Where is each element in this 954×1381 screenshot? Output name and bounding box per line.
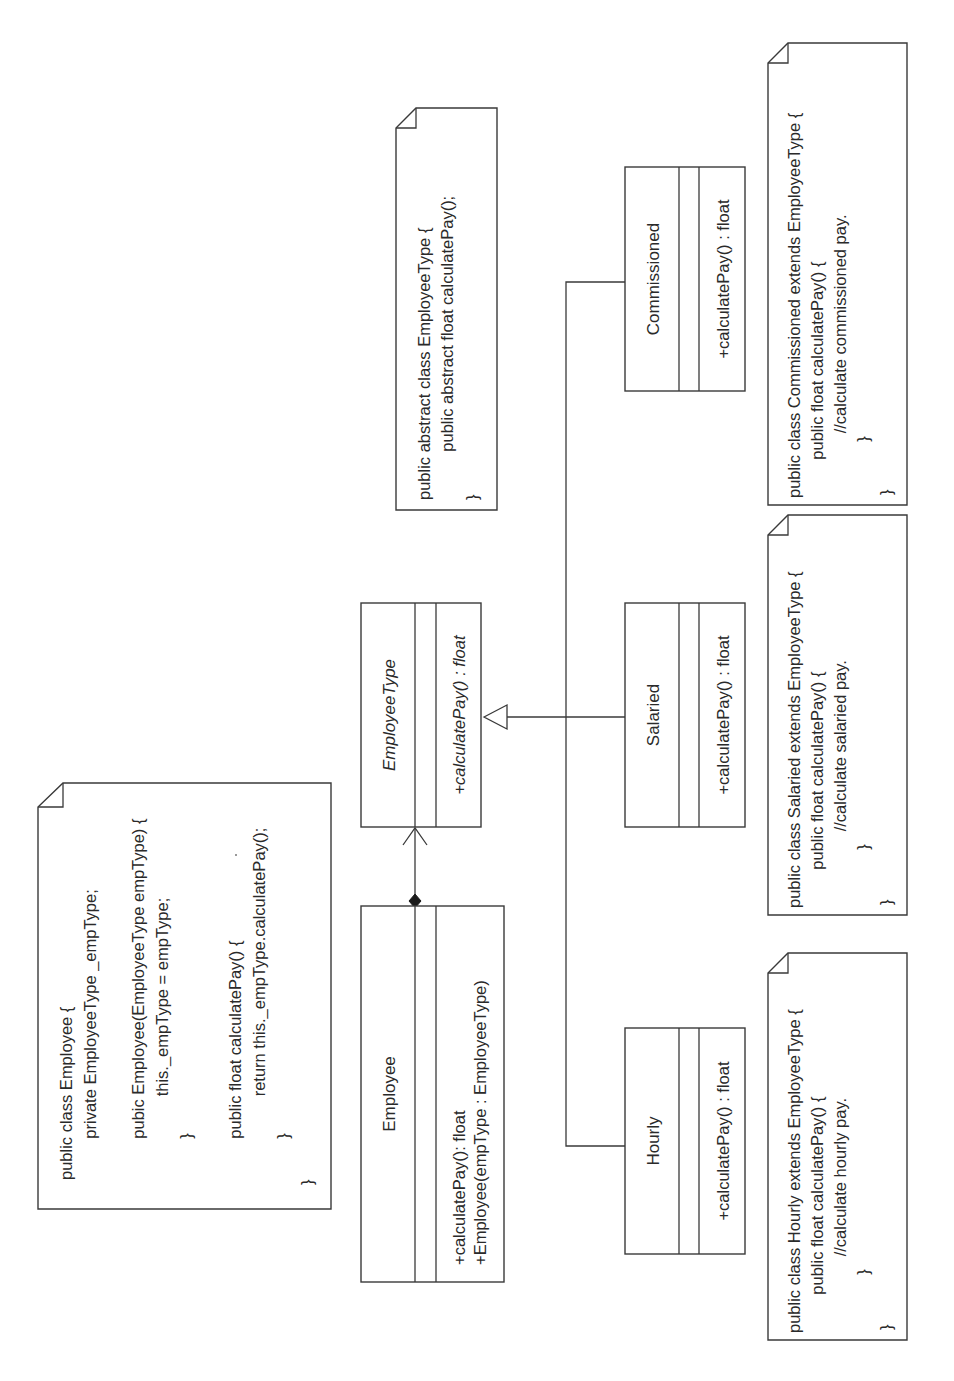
- class-salaried[interactable]: Salaried +calculatePay() : float: [625, 603, 745, 827]
- note-line: public class Commissioned extends Employ…: [785, 112, 803, 498]
- note-line: }: [854, 436, 872, 460]
- note-line: public abstract float calculatePay();: [438, 196, 456, 470]
- note-line: //calculate salaried pay.: [831, 660, 849, 868]
- note-line: return this._empType.calculatePay();: [250, 828, 269, 1133]
- note-line: }: [854, 1269, 872, 1293]
- note-line: public float calculatePay() {: [808, 671, 826, 888]
- note-line: }: [877, 489, 895, 495]
- note-line: public class Salaried extends EmployeeTy…: [785, 571, 803, 908]
- note-line: this._empType = empType;: [153, 898, 172, 1133]
- note-line: pubic Employee(EmployeeType empType) {: [129, 818, 147, 1157]
- note-employee: public class Employee { private Employee…: [38, 783, 331, 1209]
- note-line: }: [877, 899, 895, 905]
- class-commissioned[interactable]: Commissioned +calculatePay() : float: [625, 167, 745, 391]
- class-employee-type[interactable]: EmployeeType +calculatePay() : float: [361, 603, 481, 827]
- class-operation: +calculatePay() : float: [714, 199, 732, 359]
- class-operation: +calculatePay() : float: [714, 635, 732, 795]
- note-line: }: [298, 1179, 316, 1185]
- class-name: EmployeeType: [380, 659, 399, 771]
- note-line: public float calculatePay() {: [808, 261, 826, 478]
- note-hourly: public class Hourly extends EmployeeType…: [768, 953, 907, 1340]
- class-name: Employee: [380, 1056, 399, 1132]
- note-line: public float calculatePay() {: [808, 1096, 826, 1313]
- class-employee[interactable]: Employee +calculatePay(): float +Employe…: [361, 906, 504, 1282]
- class-operation: +Employee(empType : EmployeeType): [471, 980, 489, 1265]
- note-line: }: [177, 1133, 195, 1157]
- class-hourly[interactable]: Hourly +calculatePay() : float: [625, 1028, 745, 1254]
- class-operation: +calculatePay(): float: [450, 1110, 468, 1265]
- class-name: Commissioned: [644, 223, 663, 335]
- class-operation: +calculatePay() : float: [450, 634, 468, 795]
- note-line: }: [877, 1324, 895, 1330]
- note-line: private EmployeeType _empType;: [81, 889, 100, 1157]
- note-line: }: [463, 494, 481, 500]
- note-line: public class Employee {: [57, 1006, 75, 1180]
- note-line: public class Hourly extends EmployeeType…: [785, 1009, 803, 1333]
- class-name: Salaried: [644, 684, 663, 746]
- note-line: //calculate hourly pay.: [831, 1098, 849, 1293]
- note-line: }: [274, 1133, 292, 1157]
- generalization-bus-line: [566, 282, 625, 1146]
- uml-diagram-canvas: public class Employee { private Employee…: [0, 0, 954, 1381]
- note-line: public float calculatePay() {: [226, 940, 244, 1157]
- class-operation: +calculatePay() : float: [714, 1061, 732, 1221]
- scan-speck: [235, 854, 237, 856]
- class-name: Hourly: [644, 1116, 663, 1166]
- generalization-triangle: [484, 705, 507, 729]
- note-line: public abstract class EmployeeType {: [415, 227, 433, 500]
- note-employee-type: public abstract class EmployeeType { pub…: [396, 108, 497, 510]
- note-line: //calculate commissioned pay.: [831, 214, 849, 470]
- note-line: }: [854, 844, 872, 868]
- note-salaried: public class Salaried extends EmployeeTy…: [768, 515, 907, 915]
- note-commissioned: public class Commissioned extends Employ…: [768, 43, 907, 505]
